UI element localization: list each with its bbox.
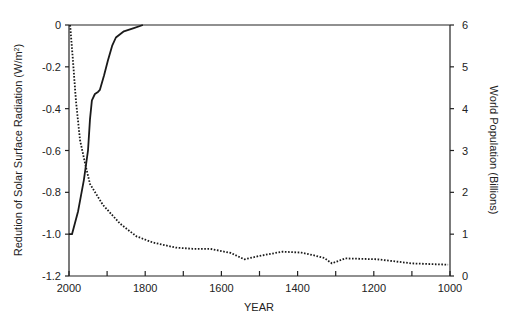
- right-y-axis-title: World Population (Billions): [488, 86, 500, 215]
- y-tick-label: -1.0: [42, 228, 61, 240]
- y-tick-label: -0.6: [42, 145, 61, 157]
- y2-tick-label: 2: [462, 186, 468, 198]
- x-tick-label: 1400: [285, 282, 309, 294]
- left-y-axis-title-text: Redution of Solar Surface Radiation (W/m: [12, 51, 24, 256]
- radiation-solid-line: [69, 25, 143, 234]
- x-tick-label: 2000: [57, 282, 81, 294]
- left-y-axis-ticks: 0-0.2-0.4-0.6-0.8-1.0-1.2: [42, 19, 69, 282]
- left-y-axis-title: Redution of Solar Surface Radiation (W/m…: [12, 44, 24, 256]
- x-axis-title: YEAR: [244, 301, 274, 313]
- right-y-axis-ticks: 6543210: [450, 19, 468, 282]
- y2-tick-label: 5: [462, 61, 468, 73]
- y2-tick-label: 4: [462, 103, 468, 115]
- chart: 200018001600140012001000 0-0.2-0.4-0.6-0…: [0, 0, 511, 331]
- y-tick-label: -0.2: [42, 61, 61, 73]
- left-y-axis-title-suffix: ): [12, 44, 24, 48]
- y2-tick-label: 1: [462, 228, 468, 240]
- x-tick-label: 1800: [133, 282, 157, 294]
- x-tick-label: 1000: [438, 282, 462, 294]
- y-tick-label: -0.4: [42, 103, 61, 115]
- y-tick-label: -1.2: [42, 270, 61, 282]
- y2-tick-label: 3: [462, 145, 468, 157]
- y2-tick-label: 0: [462, 270, 468, 282]
- plot-frame: [69, 25, 450, 276]
- y2-tick-label: 6: [462, 19, 468, 31]
- x-axis-ticks: 200018001600140012001000: [57, 271, 462, 294]
- x-tick-label: 1200: [362, 282, 386, 294]
- x-tick-label: 1600: [209, 282, 233, 294]
- y-tick-label: -0.8: [42, 186, 61, 198]
- y-tick-label: 0: [55, 19, 61, 31]
- population-dotted-line: [70, 25, 448, 265]
- series-layer: [69, 25, 448, 265]
